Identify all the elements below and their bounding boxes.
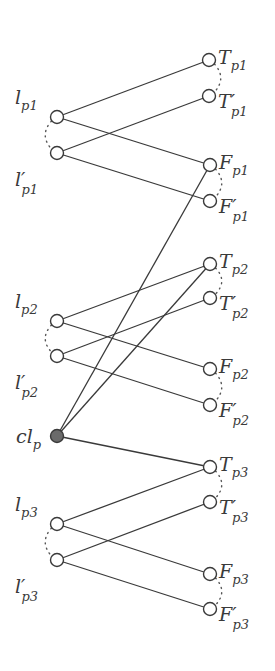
dotted-pair-l-p2 <box>45 325 51 352</box>
node-t-prime-p1 <box>203 90 216 103</box>
label-subscript: p2 <box>232 367 249 382</box>
label-main: cl <box>16 425 33 447</box>
node-l-p2 <box>51 315 64 328</box>
label-subscript: p3 <box>21 505 38 520</box>
label-main: F <box>218 560 233 582</box>
label-subscript: p2 <box>232 262 249 277</box>
label-cl-p: clp <box>16 425 42 452</box>
label-subscript: p <box>33 437 42 452</box>
label-subscript: p3 <box>232 465 249 480</box>
node-f-p3 <box>204 568 217 581</box>
label-subscript: p2 <box>21 385 38 400</box>
edge-l-p1-to-t-p1 <box>57 60 209 117</box>
node-l-p1 <box>51 111 64 124</box>
label-l-prime-p1: l′p1 <box>15 168 38 197</box>
label-subscript: p3 <box>232 572 249 587</box>
label-f-prime-p1: F′p1 <box>218 195 249 224</box>
edge-l-prime-p1-to-f-prime-p1 <box>57 153 210 201</box>
dotted-pair-t-p1 <box>215 64 221 92</box>
dotted-pair-t-p3 <box>216 471 222 498</box>
label-t-p3: Tp3 <box>219 453 248 480</box>
edge-l-prime-p3-to-f-prime-p3 <box>57 560 210 609</box>
edge-l-prime-p2-to-t-prime-p2 <box>57 298 210 356</box>
node-labels: Tp1T′p1lp1l′p1Fp1F′p1Tp2T′p2lp2l′p2Fp2F′… <box>15 46 249 632</box>
label-f-prime-p2: F′p2 <box>218 399 249 428</box>
label-f-p2: Fp2 <box>218 355 249 382</box>
label-f-p3: Fp3 <box>218 560 249 587</box>
label-t-prime-p1: T′p1 <box>218 90 248 119</box>
label-subscript: p3 <box>21 589 38 604</box>
node-f-prime-p2 <box>204 399 217 412</box>
label-subscript: p1 <box>232 163 249 178</box>
label-l-p3: lp3 <box>15 493 38 520</box>
label-t-p2: Tp2 <box>219 250 248 277</box>
node-f-prime-p3 <box>204 603 217 616</box>
node-cl-p <box>51 430 64 443</box>
label-subscript: p3 <box>232 510 249 525</box>
node-t-prime-p3 <box>204 496 217 509</box>
node-f-prime-p1 <box>204 195 217 208</box>
label-subscript: p1 <box>233 209 250 224</box>
label-t-prime-p3: T′p3 <box>219 496 249 525</box>
label-l-prime-p3: l′p3 <box>15 575 38 604</box>
graph-edges <box>57 60 210 609</box>
edge-cl-p-to-t-p2 <box>57 264 210 436</box>
dotted-pair-connectors <box>45 64 222 605</box>
label-t-prime-p2: T′p2 <box>219 292 249 321</box>
edge-l-prime-p2-to-f-prime-p2 <box>57 356 210 405</box>
node-t-p3 <box>204 461 217 474</box>
dotted-pair-f-p2 <box>216 373 222 401</box>
label-f-p1: Fp1 <box>218 151 249 178</box>
node-t-p2 <box>204 258 217 271</box>
dotted-pair-l-p3 <box>45 528 51 556</box>
node-l-p3 <box>51 518 64 531</box>
label-subscript: p2 <box>233 413 250 428</box>
label-main: F <box>218 355 233 377</box>
node-f-p2 <box>204 363 217 376</box>
node-f-p1 <box>204 159 217 172</box>
label-l-p2: lp2 <box>15 290 38 317</box>
label-f-prime-p3: F′p3 <box>218 603 249 632</box>
label-main: F <box>218 151 233 173</box>
dotted-pair-f-p1 <box>216 169 222 197</box>
node-l-prime-p3 <box>51 554 64 567</box>
literal-clause-gadget-diagram: Tp1T′p1lp1l′p1Fp1F′p1Tp2T′p2lp2l′p2Fp2F′… <box>0 0 275 671</box>
edge-l-p2-to-t-p2 <box>57 264 210 321</box>
edge-cl-p-to-t-p3 <box>57 436 210 467</box>
edge-l-p3-to-t-p3 <box>57 467 210 524</box>
label-subscript: p1 <box>21 182 38 197</box>
label-subscript: p1 <box>21 98 38 113</box>
label-subscript: p2 <box>21 302 38 317</box>
label-subscript: p3 <box>233 617 250 632</box>
node-l-prime-p1 <box>51 147 64 160</box>
edge-l-p2-to-f-p2 <box>57 321 210 369</box>
label-subscript: p1 <box>231 58 248 73</box>
label-t-p1: Tp1 <box>218 46 247 73</box>
dotted-pair-l-p1 <box>45 121 51 149</box>
node-t-prime-p2 <box>204 292 217 305</box>
label-subscript: p2 <box>232 306 249 321</box>
label-l-prime-p2: l′p2 <box>15 371 38 400</box>
dotted-pair-f-p3 <box>216 578 222 605</box>
label-l-p1: lp1 <box>15 86 38 113</box>
edge-cl-p-to-f-p1 <box>57 165 210 436</box>
label-subscript: p1 <box>231 104 248 119</box>
node-t-p1 <box>203 54 216 67</box>
node-l-prime-p2 <box>51 350 64 363</box>
